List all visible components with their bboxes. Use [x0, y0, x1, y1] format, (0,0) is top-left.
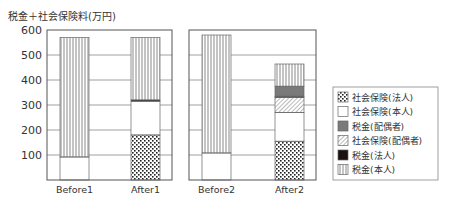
bar-after1: [131, 38, 160, 181]
legend-label: 社会保険(本人): [352, 106, 413, 117]
x-category-label: After1: [131, 184, 160, 195]
bar-after2: [275, 64, 304, 180]
bar-segment: [60, 38, 89, 158]
x-category-label: After2: [275, 184, 304, 195]
bar-segment: [275, 86, 304, 96]
legend-item: 税金(法人): [338, 150, 395, 161]
legend-label: 税金(配偶者): [352, 121, 404, 132]
bar-segment: [131, 38, 160, 101]
bar-before2: [202, 35, 231, 180]
y-tick-label: 400: [21, 74, 42, 87]
y-tick-label: 600: [21, 24, 42, 37]
bar-segment: [275, 98, 304, 113]
legend-swatch: [338, 121, 348, 131]
legend: 社会保険(法人)社会保険(本人)税金(配偶者)社会保険(配偶者)税金(法人)税金…: [333, 87, 438, 180]
y-tick-label: 300: [21, 99, 42, 112]
chart-panels: Before1After1Before2After2: [47, 30, 316, 195]
bar-segment: [275, 113, 304, 142]
legend-label: 税金(本人): [352, 164, 395, 175]
bar-segment: [202, 35, 231, 153]
legend-swatch: [338, 150, 348, 160]
y-tick-label: 500: [21, 49, 42, 62]
bar-segment: [60, 157, 89, 180]
y-tick-label: 100: [21, 149, 42, 162]
legend-item: 税金(本人): [338, 164, 395, 175]
bar-before1: [60, 38, 89, 181]
legend-label: 社会保険(法人): [352, 92, 413, 103]
bar-segment: [131, 135, 160, 180]
legend-swatch: [338, 92, 348, 102]
legend-swatch: [338, 107, 348, 117]
legend-swatch: [338, 165, 348, 175]
x-category-label: Before2: [198, 184, 235, 195]
bar-segment: [275, 64, 304, 86]
chart-panel-2: Before2After2: [189, 30, 316, 195]
bar-segment: [275, 141, 304, 180]
stacked-bar-chart: 税金＋社会保険料(万円) 100200300400500600 Before1A…: [0, 0, 459, 208]
bar-segment: [202, 153, 231, 180]
bar-segment: [131, 101, 160, 135]
legend-label: 社会保険(配偶者): [352, 135, 422, 146]
y-axis-ticks: 100200300400500600: [21, 24, 42, 162]
legend-label: 税金(法人): [352, 150, 395, 161]
legend-swatch: [338, 136, 348, 146]
y-tick-label: 200: [21, 124, 42, 137]
legend-item: 税金(配偶者): [338, 121, 404, 132]
chart-panel-1: Before1After1: [47, 30, 172, 195]
y-axis-title: 税金＋社会保険料(万円): [8, 10, 116, 22]
x-category-label: Before1: [56, 184, 93, 195]
